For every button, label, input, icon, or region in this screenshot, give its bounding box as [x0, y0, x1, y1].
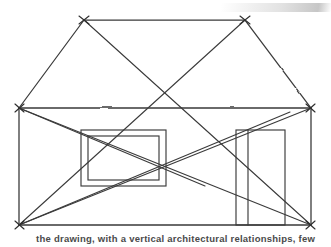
- diagonal-apex-left-to-corner-right: [84, 20, 311, 225]
- diagonal-corner-left-to-eave-right: [19, 112, 290, 225]
- roof-left-slope: [19, 20, 84, 108]
- diagonal-eave-left-to-window-right: [19, 108, 205, 186]
- house-elevation-sketch: [0, 0, 331, 247]
- caption: the drawing, with a vertical architectur…: [0, 234, 331, 247]
- sketch-screenshot: the drawing, with a vertical architectur…: [0, 0, 331, 247]
- door-rect: [236, 130, 285, 225]
- caption-text: the drawing, with a vertical architectur…: [36, 234, 315, 244]
- roof-right-slope: [245, 20, 311, 108]
